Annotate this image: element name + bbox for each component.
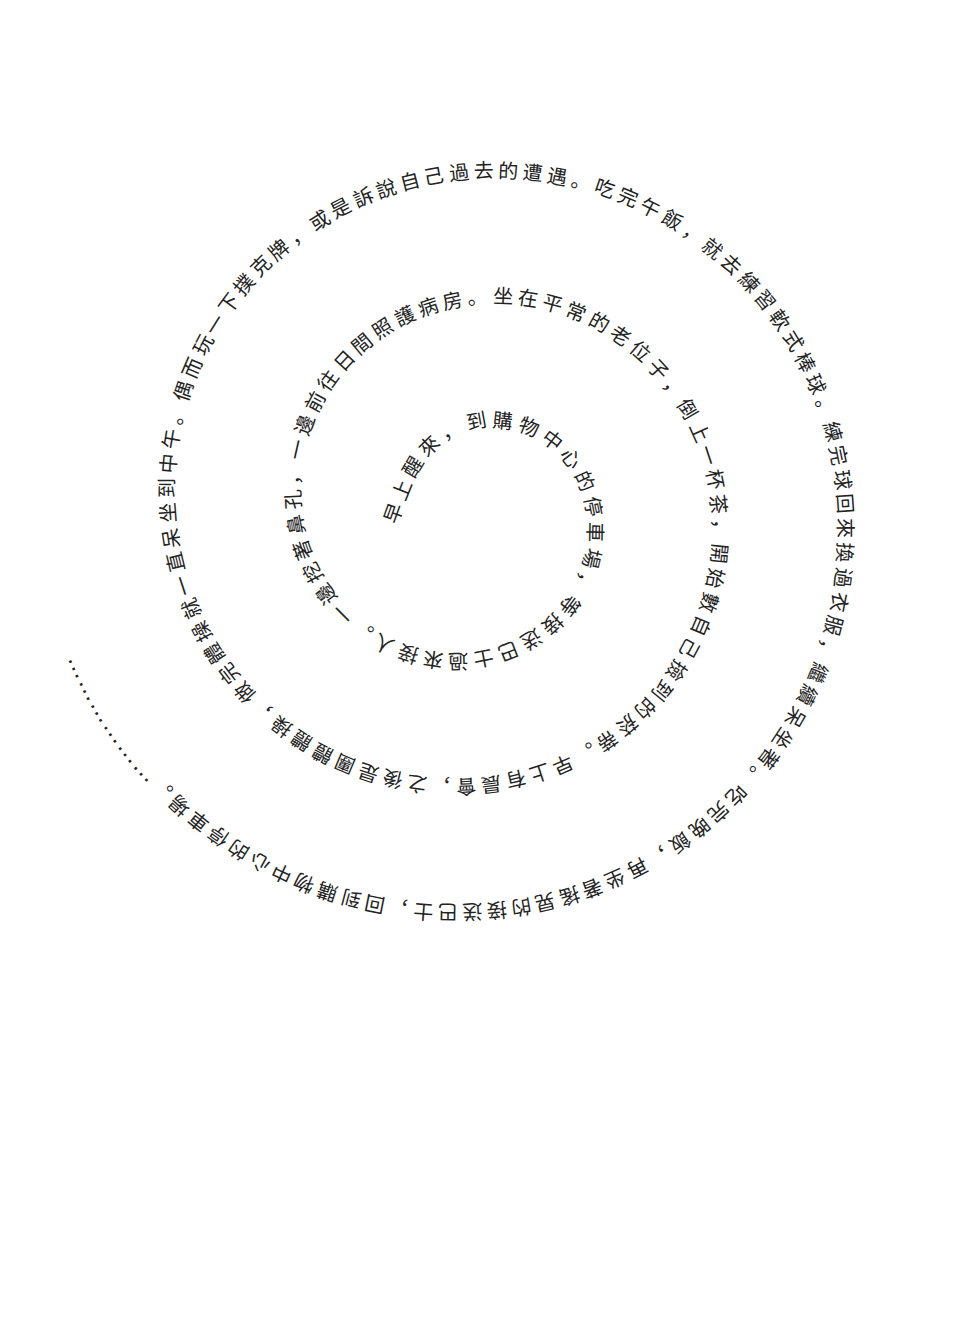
- spiral-char: 一: [284, 437, 312, 462]
- spiral-char: 己: [422, 163, 446, 190]
- spiral-char: 停: [579, 494, 606, 518]
- spiral-char: 續: [792, 680, 822, 709]
- trailing-ellipsis: ………………: [49, 655, 154, 798]
- spiral-char: 去: [473, 159, 494, 184]
- spiral-char: 醒: [397, 452, 428, 481]
- spiral-char: 上: [527, 758, 553, 787]
- spiral-char: 坐: [601, 863, 629, 893]
- spiral-char: 。: [467, 284, 489, 310]
- spiral-char: 來: [421, 646, 444, 673]
- spiral-char: 有: [503, 766, 528, 794]
- spiral-char: 照: [368, 313, 398, 344]
- spiral-char: 車: [583, 522, 607, 542]
- spiral-char: 坐: [492, 284, 513, 309]
- spiral-char: 著: [288, 536, 317, 563]
- spiral-char: 過: [448, 649, 468, 673]
- spiral-char: 中: [156, 453, 182, 475]
- spiral-char: 繼: [802, 659, 832, 687]
- spiral-char: 之: [406, 770, 429, 797]
- spiral-char: 過: [829, 566, 855, 589]
- spiral-char: 會: [456, 774, 477, 799]
- spiral-char: 接: [486, 897, 508, 923]
- spiral-char: 接: [395, 639, 421, 668]
- spiral-char: 晃: [533, 888, 558, 916]
- spiral-char: 午: [636, 193, 665, 223]
- spiral-char: 孔: [281, 489, 306, 510]
- spiral-char: 的: [498, 159, 519, 184]
- spiral-char: 場: [577, 546, 605, 571]
- spiral-char: 送: [517, 624, 547, 655]
- spiral-char: 回: [832, 493, 857, 515]
- spiral-char: ，: [708, 519, 732, 539]
- spiral-char: 來: [414, 431, 445, 462]
- spiral-char: 來: [833, 518, 857, 538]
- spiral-char: 。: [569, 168, 594, 196]
- spiral-char: 。: [810, 394, 839, 421]
- spiral-char: 購: [492, 408, 514, 434]
- spiral-char: 早: [549, 749, 577, 779]
- spiral-char: 自: [398, 168, 423, 196]
- spiral-char: 棒: [790, 348, 820, 377]
- spiral-char: 心: [555, 444, 586, 475]
- spiral-char: 巴: [438, 900, 458, 924]
- spiral-char: 到: [464, 408, 488, 435]
- spiral-char: 說: [373, 174, 400, 203]
- spiral-char: 送: [462, 899, 483, 924]
- spiral-char: 服: [819, 613, 847, 638]
- spiral-char: 訴: [350, 183, 378, 213]
- spiral-char: 茶: [705, 493, 731, 515]
- spiral-char: 邊: [290, 412, 319, 439]
- spiral-char: 著: [579, 873, 606, 902]
- spiral-char: 操: [187, 617, 218, 646]
- book-page: 早上醒來，到購物中心的停車場，等接送巴士過來接人。一邊挖著鼻孔，一邊前往日間照護…: [0, 0, 960, 1324]
- spiral-char: ，: [436, 415, 465, 446]
- spiral-char: 購: [314, 877, 341, 906]
- spiral-char: 房: [441, 287, 465, 315]
- spiral-char: 回: [363, 890, 387, 917]
- spiral-char: 士: [412, 898, 434, 924]
- spiral-char: 再: [623, 852, 652, 883]
- spiral-char: 病: [415, 293, 442, 322]
- spiral-char: 坐: [156, 502, 181, 524]
- spiral-char: 一: [693, 442, 722, 468]
- spiral-char: 晨: [480, 771, 503, 797]
- spiral-char: 挖: [298, 558, 329, 587]
- spiral-char: 在: [516, 286, 539, 313]
- spiral-char: ，: [431, 773, 452, 798]
- spiral-char: 平: [540, 290, 566, 318]
- spiral-char: 過: [447, 160, 469, 186]
- spiral-char: 練: [818, 419, 846, 445]
- spiral-char: 完: [824, 443, 852, 467]
- spiral-char: 的: [569, 467, 599, 495]
- spiral-char: 遭: [521, 160, 544, 186]
- spiral-char: 到: [338, 884, 363, 912]
- spiral-char: 鼻: [283, 513, 310, 537]
- spiral-text: 早上醒來，到購物中心的停車場，等接送巴士過來接人。一邊挖著鼻孔，一邊前往日間照護…: [147, 159, 858, 924]
- trailing-ellipsis-text: ………………: [49, 655, 154, 798]
- spiral-char: 搖: [556, 881, 582, 910]
- spiral-char: 呆: [158, 526, 185, 550]
- spiral-char: 。: [571, 738, 600, 769]
- spiral-char: 就: [177, 595, 207, 623]
- spiral-char: 護: [391, 301, 419, 331]
- spiral-char: 是: [356, 758, 382, 787]
- spiral-char: 物: [515, 412, 543, 442]
- spiral-char: 遇: [545, 163, 569, 190]
- spiral-char: 直: [162, 549, 190, 574]
- spiral-char: 球: [829, 468, 856, 491]
- spiral-char: 吃: [591, 174, 618, 203]
- spiral-char: 常: [562, 297, 590, 327]
- spiral-char: 完: [614, 183, 642, 213]
- spiral-char: ，: [811, 636, 840, 663]
- spiral-char: ，: [387, 895, 410, 922]
- spiral-char: 是: [327, 193, 356, 224]
- spiral-char: 午: [158, 427, 185, 451]
- spiral-char: 倒: [672, 395, 703, 424]
- spiral-char: 巴: [495, 636, 522, 666]
- spiral-char: 。: [163, 402, 191, 427]
- spiral-char: 開: [706, 543, 732, 565]
- spiral-char: 偶: [169, 378, 198, 405]
- spiral-char: 球: [801, 371, 831, 399]
- spiral-char: 人: [370, 628, 399, 658]
- spiral-char: 物: [291, 868, 318, 898]
